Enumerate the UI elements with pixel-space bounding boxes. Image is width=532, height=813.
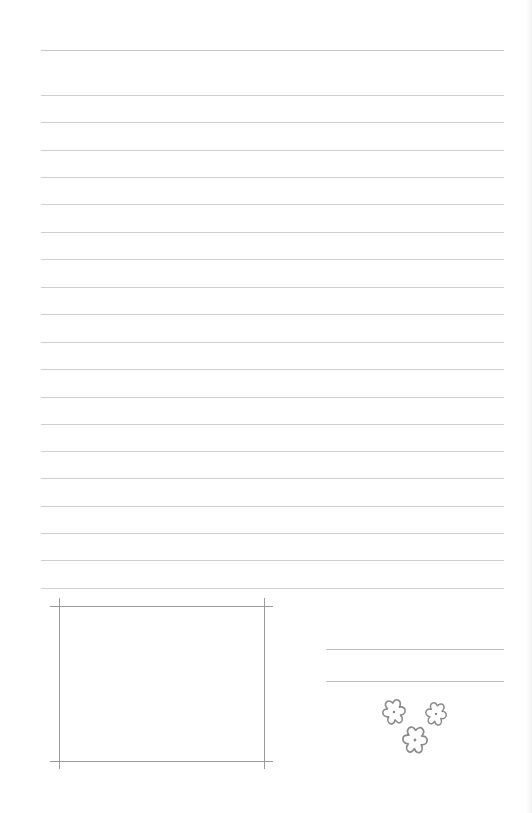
writing-line[interactable] xyxy=(41,150,504,151)
writing-line[interactable] xyxy=(41,588,504,589)
writing-line[interactable] xyxy=(41,397,504,398)
page-edge-shadow xyxy=(526,0,532,813)
signature-line[interactable] xyxy=(326,681,504,682)
signature-line[interactable] xyxy=(326,649,504,650)
writing-line[interactable] xyxy=(41,287,504,288)
writing-line[interactable] xyxy=(41,177,504,178)
flower-icon xyxy=(402,727,428,754)
writing-line[interactable] xyxy=(41,478,504,479)
writing-line[interactable] xyxy=(41,451,504,452)
flower-icon xyxy=(424,702,448,727)
frame-left-edge xyxy=(59,598,60,769)
frame-bottom-edge xyxy=(50,761,273,762)
writing-line[interactable] xyxy=(41,506,504,507)
writing-line[interactable] xyxy=(41,95,504,96)
writing-line[interactable] xyxy=(41,314,504,315)
frame-right-edge xyxy=(264,598,265,769)
frame-top-edge xyxy=(50,606,273,607)
flower-decoration xyxy=(370,690,460,760)
writing-line[interactable] xyxy=(41,342,504,343)
writing-line[interactable] xyxy=(41,369,504,370)
writing-line[interactable] xyxy=(41,259,504,260)
flower-icon xyxy=(381,699,406,725)
writing-line[interactable] xyxy=(41,533,504,534)
writing-line[interactable] xyxy=(41,560,504,561)
writing-line[interactable] xyxy=(41,50,504,51)
writing-line[interactable] xyxy=(41,122,504,123)
writing-line[interactable] xyxy=(41,424,504,425)
writing-line[interactable] xyxy=(41,232,504,233)
writing-line[interactable] xyxy=(41,204,504,205)
